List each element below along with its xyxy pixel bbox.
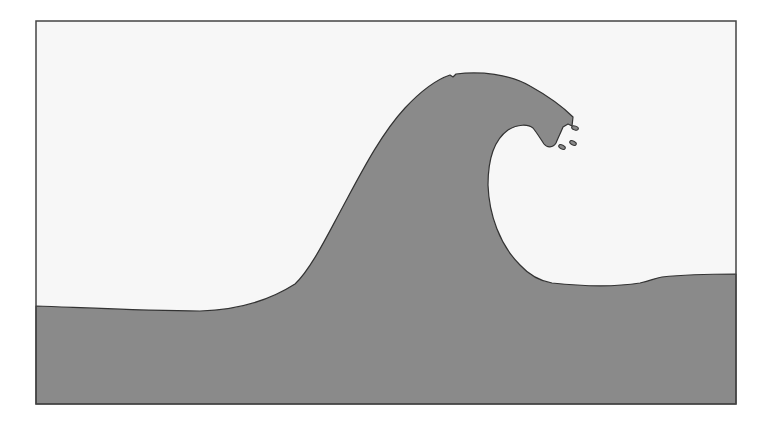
wave-illustration xyxy=(0,0,773,433)
wave-drawing xyxy=(0,0,773,433)
